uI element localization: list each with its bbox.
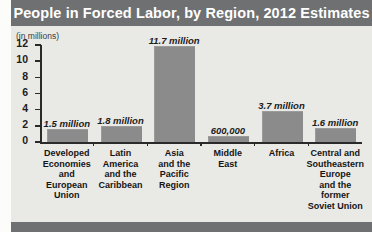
bar-value-label: 11.7 million: [144, 35, 204, 46]
bar: [262, 111, 303, 142]
x-tick-4: [254, 142, 256, 146]
category-label-line: and: [37, 169, 97, 180]
category-label-line: Caribbean: [91, 180, 151, 191]
category-label-line: Union: [37, 190, 97, 201]
y-tick-8: 8: [35, 77, 41, 79]
y-tick-label: 8: [22, 70, 28, 82]
y-tick-label: 4: [22, 102, 28, 114]
category-label-line: and the: [144, 159, 204, 170]
category-label-line: Southeastern: [305, 159, 365, 170]
category-label-line: Economies: [37, 159, 97, 170]
category-label-line: Pacific: [144, 169, 204, 180]
category-label-line: Latin: [91, 148, 151, 159]
category-label-line: East: [198, 159, 258, 170]
x-tick-5: [308, 142, 310, 146]
category-label-line: European: [37, 180, 97, 191]
category-label-line: America: [91, 159, 151, 170]
chart-page: People in Forced Labor, by Region, 2012 …: [0, 0, 372, 232]
bar: [47, 129, 88, 142]
category-label-line: Middle: [198, 148, 258, 159]
x-tick-3: [200, 142, 202, 146]
category-label-line: former: [305, 190, 365, 201]
y-tick-label: 12: [16, 37, 28, 49]
plot-area: 024681012 1.5 million1.8 million11.7 mil…: [40, 45, 362, 142]
x-tick-1: [93, 142, 95, 146]
category-label: LatinAmericaand theCaribbean: [91, 148, 151, 190]
y-tick-6: 6: [35, 93, 41, 95]
category-label: DevelopedEconomiesandEuropeanUnion: [37, 148, 97, 201]
y-tick-label: 10: [16, 53, 28, 65]
bar: [101, 126, 142, 142]
chart-title-banner: People in Forced Labor, by Region, 2012 …: [11, 0, 372, 26]
category-label-line: and the: [305, 180, 365, 191]
category-label-line: Europe: [305, 169, 365, 180]
category-label-line: and the: [91, 169, 151, 180]
y-tick-4: 4: [35, 109, 41, 111]
category-label-line: Soviet Union: [305, 201, 365, 212]
chart-body: (in millions) 024681012 1.5 million1.8 m…: [11, 26, 372, 222]
bar: [208, 136, 249, 142]
category-label-line: Asia: [144, 148, 204, 159]
bar-value-label: 3.7 million: [252, 100, 312, 111]
category-label: Africa: [252, 148, 312, 159]
bar: [154, 46, 195, 142]
page-left-margin: [0, 0, 11, 232]
category-label: Central andSoutheasternEuropeand theform…: [305, 148, 365, 211]
category-label: Asiaand thePacificRegion: [144, 148, 204, 190]
footer-rule: [11, 222, 372, 232]
category-label-line: Africa: [252, 148, 312, 159]
y-tick-label: 2: [22, 118, 28, 130]
bar-value-label: 1.8 million: [91, 115, 151, 126]
bar-value-label: 1.6 million: [305, 117, 365, 128]
category-label: MiddleEast: [198, 148, 258, 169]
y-tick-12: 12: [35, 44, 41, 46]
x-tick-2: [147, 142, 149, 146]
category-label-line: Region: [144, 180, 204, 191]
y-tick-0: 0: [35, 141, 41, 143]
bar-value-label: 600,000: [198, 125, 258, 136]
bar-value-label: 1.5 million: [37, 118, 97, 129]
chart-title: People in Forced Labor, by Region, 2012 …: [13, 5, 369, 21]
bar: [315, 128, 356, 142]
y-tick-label: 0: [22, 134, 28, 146]
y-tick-10: 10: [35, 60, 41, 62]
category-label-line: Central and: [305, 148, 365, 159]
y-tick-label: 6: [22, 86, 28, 98]
category-label-line: Developed: [37, 148, 97, 159]
